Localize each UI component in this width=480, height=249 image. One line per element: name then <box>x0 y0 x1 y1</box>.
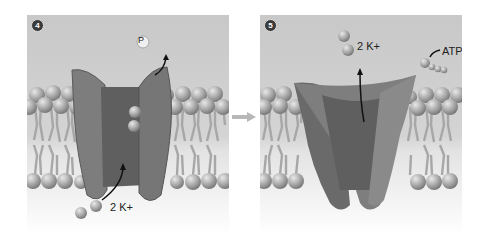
phosphate-label: P <box>138 35 144 45</box>
k-ion-label: 2 K+ <box>110 201 133 213</box>
k-ion <box>90 200 102 212</box>
atp-label: ATP <box>442 45 462 57</box>
panel-step-5: 5 2 K+ ATP <box>260 15 462 235</box>
k-ion <box>75 207 87 219</box>
k-ion <box>342 44 354 56</box>
k-ion <box>338 30 350 42</box>
step-number-badge: 5 <box>264 19 277 32</box>
right-arrow-icon <box>232 112 256 122</box>
k-ion-label: 2 K+ <box>357 40 380 52</box>
step-number-badge: 4 <box>31 19 44 32</box>
sodium-potassium-pump-protein <box>72 67 172 201</box>
panel-step-4: 4 P 2 K+ <box>27 15 229 235</box>
